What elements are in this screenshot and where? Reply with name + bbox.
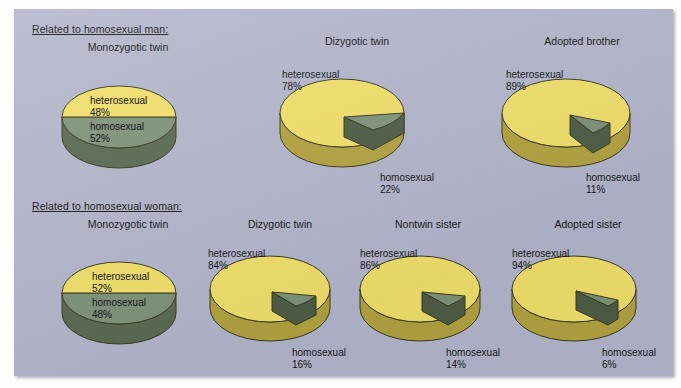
- callout-hetero-text: heterosexual: [512, 248, 569, 260]
- callout-hetero-value: 89%: [506, 81, 563, 93]
- figure-page: Related to homosexual man: Related to ho…: [0, 0, 681, 388]
- callout-homo-text: homosexual: [380, 172, 434, 184]
- row-label-man: Related to homosexual man:: [32, 23, 168, 35]
- chart-title-woman-nontwin-sister: Nontwin sister: [358, 218, 498, 230]
- callout-homo-woman-nontwin-sister: homosexual 14%: [446, 347, 500, 370]
- callout-hetero-woman-nontwin-sister: heterosexual 86%: [360, 248, 417, 271]
- callout-homo-value: 11%: [586, 184, 640, 196]
- slice-top-heterosexual: [62, 262, 176, 293]
- callout-hetero-text: heterosexual: [282, 69, 339, 81]
- chart-title-woman-dizygotic-twin: Dizygotic twin: [210, 218, 350, 230]
- pie-svg-man-monozygotic-twin: [54, 69, 184, 169]
- callout-hetero-value: 94%: [512, 260, 569, 272]
- figure-panel: Related to homosexual man: Related to ho…: [14, 9, 673, 376]
- callout-hetero-text: heterosexual: [506, 69, 563, 81]
- callout-homo-woman-adopted-sister: homosexual 6%: [602, 347, 656, 370]
- callout-homo-value: 22%: [380, 184, 434, 196]
- row-label-woman: Related to homosexual woman:: [32, 200, 182, 212]
- pie-chart-man-monozygotic-twin[interactable]: [54, 69, 184, 169]
- slice-top-heterosexual: [62, 86, 176, 117]
- chart-title-man-monozygotic-twin: Monozygotic twin: [48, 41, 208, 53]
- callout-hetero-man-dizygotic-twin: heterosexual 78%: [282, 69, 339, 92]
- callout-homo-text: homosexual: [446, 347, 500, 359]
- callout-hetero-text: heterosexual: [360, 248, 417, 260]
- callout-homo-man-dizygotic-twin: homosexual 22%: [380, 172, 434, 195]
- callout-homo-text: homosexual: [292, 347, 346, 359]
- callout-homo-value: 16%: [292, 359, 346, 371]
- chart-title-woman-monozygotic-twin: Monozygotic twin: [48, 218, 208, 230]
- chart-title-man-adopted-brother: Adopted brother: [512, 35, 652, 47]
- callout-hetero-value: 86%: [360, 260, 417, 272]
- callout-hetero-text: heterosexual: [208, 248, 265, 260]
- chart-title-woman-adopted-sister: Adopted sister: [518, 218, 658, 230]
- callout-homo-woman-dizygotic-twin: homosexual 16%: [292, 347, 346, 370]
- callout-hetero-woman-dizygotic-twin: heterosexual 84%: [208, 248, 265, 271]
- callout-homo-text: homosexual: [586, 172, 640, 184]
- chart-title-man-dizygotic-twin: Dizygotic twin: [292, 35, 422, 47]
- callout-hetero-value: 84%: [208, 260, 265, 272]
- callout-homo-value: 6%: [602, 359, 656, 371]
- callout-hetero-woman-adopted-sister: heterosexual 94%: [512, 248, 569, 271]
- callout-homo-text: homosexual: [602, 347, 656, 359]
- callout-homo-man-adopted-brother: homosexual 11%: [586, 172, 640, 195]
- callout-hetero-value: 78%: [282, 81, 339, 93]
- pie-chart-woman-monozygotic-twin[interactable]: [54, 247, 184, 347]
- pie-svg-woman-monozygotic-twin: [54, 247, 184, 347]
- callout-hetero-man-adopted-brother: heterosexual 89%: [506, 69, 563, 92]
- callout-homo-value: 14%: [446, 359, 500, 371]
